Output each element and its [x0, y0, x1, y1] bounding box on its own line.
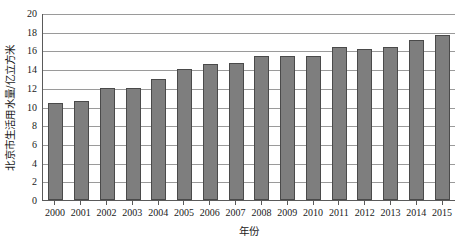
x-axis-tick-labels: 2000200120022003200420052006200720082009…: [42, 205, 455, 221]
x-tick-label: 2010: [300, 205, 326, 221]
x-tick-label: 2015: [429, 205, 455, 221]
plot-area: [42, 14, 455, 201]
y-tick-label: 10: [27, 103, 37, 113]
x-tick-label: 2000: [42, 205, 68, 221]
x-tick-label: 2009: [274, 205, 300, 221]
bar: [229, 63, 244, 200]
x-tick-label: 2012: [352, 205, 378, 221]
y-tick-label: 18: [27, 28, 37, 38]
bar-chart: 北京市生活用水量/亿立方米 02468101214161820 20002001…: [0, 0, 467, 251]
y-axis-title: 北京市生活用水量/亿立方米: [0, 0, 18, 215]
bar: [48, 103, 63, 200]
bar: [74, 101, 89, 200]
y-tick-label: 2: [32, 177, 37, 187]
x-axis-title: 年份: [42, 223, 455, 238]
y-tick-label: 4: [32, 159, 37, 169]
x-tick-label: 2013: [378, 205, 404, 221]
x-tick-label: 2007: [223, 205, 249, 221]
bar: [203, 64, 218, 200]
x-tick-label: 2002: [94, 205, 120, 221]
bar: [332, 47, 347, 200]
x-tick-label: 2008: [249, 205, 275, 221]
bar: [383, 47, 398, 200]
bar: [151, 79, 166, 200]
y-tick-label: 0: [32, 196, 37, 206]
y-tick-label: 6: [32, 140, 37, 150]
bar: [126, 88, 141, 200]
y-tick-label: 12: [27, 84, 37, 94]
bar: [280, 56, 295, 200]
bar: [435, 35, 450, 200]
y-tick-label: 8: [32, 121, 37, 131]
y-axis-title-text: 北京市生活用水量/亿立方米: [2, 44, 17, 170]
bar: [409, 40, 424, 200]
x-tick-label: 2014: [403, 205, 429, 221]
bar: [357, 49, 372, 200]
x-tick-label: 2006: [197, 205, 223, 221]
bars-layer: [43, 14, 455, 200]
bar: [100, 88, 115, 200]
y-tick-label: 20: [27, 9, 37, 19]
bar: [254, 56, 269, 200]
x-tick-label: 2004: [145, 205, 171, 221]
bar: [177, 69, 192, 200]
x-tick-label: 2001: [68, 205, 94, 221]
y-axis-tick-labels: 02468101214161820: [18, 0, 40, 215]
x-tick-label: 2011: [326, 205, 352, 221]
y-tick-label: 14: [27, 65, 37, 75]
x-tick-label: 2005: [171, 205, 197, 221]
bar: [306, 56, 321, 200]
y-tick-label: 16: [27, 46, 37, 56]
x-tick-label: 2003: [119, 205, 145, 221]
